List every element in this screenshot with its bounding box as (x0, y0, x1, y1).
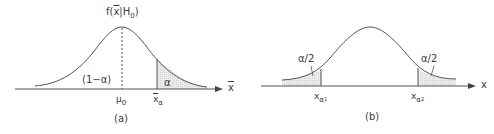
caption-b: (b) (365, 112, 379, 122)
caption-a: (a) (114, 114, 128, 124)
density-label-suffix: ) (135, 6, 139, 17)
right-tail-label: α/2 (421, 54, 437, 64)
critical-value-label: xα (153, 95, 163, 104)
right-critical-subsub: 2 (421, 96, 424, 102)
density-label-sub: 0 (130, 12, 134, 20)
axis-arrow-icon (468, 83, 476, 89)
left-critical-subsub: 1 (324, 96, 327, 102)
density-label-mid: |H (119, 6, 130, 17)
rejection-region-label: α (164, 78, 171, 88)
axis-arrow-icon (215, 86, 223, 92)
critical-value-sub: α (158, 99, 163, 107)
mean-label: μ0 (116, 95, 126, 104)
axis-label-a: x (228, 83, 234, 93)
right-critical-label: xα2 (411, 92, 424, 101)
left-tail-label: α/2 (298, 54, 314, 64)
right-tail-shade (418, 69, 456, 86)
mean-label-sub: 0 (122, 99, 126, 107)
density-label: f(x|H0) (106, 7, 139, 17)
mean-label-main: μ (116, 94, 122, 104)
acceptance-region-label: (1−α) (82, 75, 111, 85)
axis-label-b: x (481, 80, 487, 90)
figure-graphics (0, 0, 494, 134)
panel-a (15, 27, 223, 92)
left-critical-label: xα1 (314, 92, 327, 101)
hypothesis-test-figure: f(x|H0) (1−α) α μ0 xα x (a) α/2 α/2 xα1 … (0, 0, 494, 134)
panel-b (261, 27, 476, 89)
